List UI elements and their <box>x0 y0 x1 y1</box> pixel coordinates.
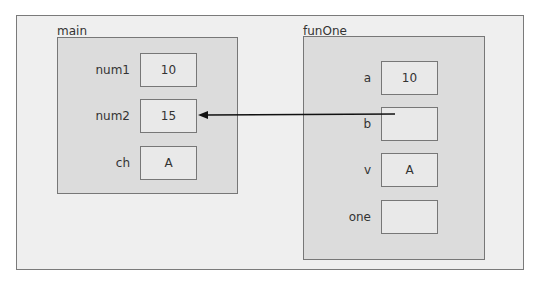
arrowhead-icon <box>198 111 208 119</box>
reference-arrow <box>0 0 539 284</box>
